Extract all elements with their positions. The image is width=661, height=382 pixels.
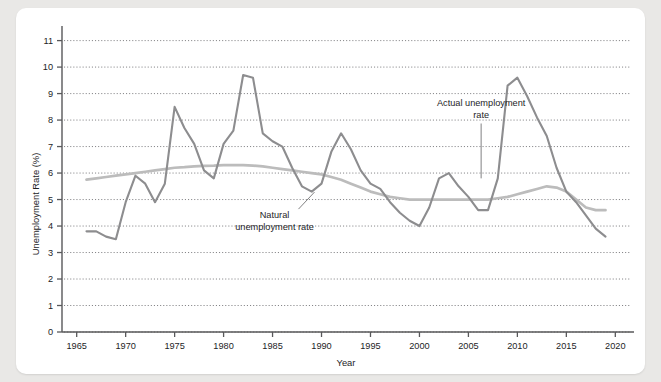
chart-plot-area: 01234567891011 1965197019751980198519901… — [16, 8, 645, 374]
annotation-natural-line1: Natural — [260, 210, 290, 220]
y-axis-title: Unemployment Rate (%) — [30, 153, 41, 256]
y-tick-label-2: 2 — [48, 274, 53, 284]
x-tick-label-1965: 1965 — [66, 341, 86, 351]
x-tick-label-1985: 1985 — [262, 341, 282, 351]
y-tick-label-6: 6 — [48, 168, 53, 178]
y-tick-label-3: 3 — [48, 248, 53, 258]
y-tick-label-9: 9 — [48, 89, 53, 99]
data-series — [86, 75, 605, 239]
x-axis-title: Year — [337, 357, 356, 368]
x-tick-label-2000: 2000 — [409, 341, 429, 351]
x-tick-label-2005: 2005 — [458, 341, 478, 351]
series-line-actual-unemployment — [86, 75, 605, 239]
y-tick-label-1: 1 — [48, 301, 53, 311]
y-tick-label-5: 5 — [48, 195, 53, 205]
x-tick-label-2010: 2010 — [507, 341, 527, 351]
x-tick-label-1975: 1975 — [164, 341, 184, 351]
y-tick-labels: 01234567891011 — [43, 36, 53, 337]
annotation-natural-leader-line — [299, 192, 315, 209]
x-tick-label-1980: 1980 — [213, 341, 233, 351]
unemployment-line-chart: 01234567891011 1965197019751980198519901… — [16, 8, 645, 374]
annotation-actual-line1: Actual unemployment — [437, 98, 526, 108]
x-tick-label-2020: 2020 — [605, 341, 625, 351]
y-tick-label-0: 0 — [48, 327, 53, 337]
y-tick-label-7: 7 — [48, 142, 53, 152]
y-tick-label-8: 8 — [48, 115, 53, 125]
x-tick-label-1990: 1990 — [311, 341, 331, 351]
series-annotations: Naturalunemployment rateActual unemploym… — [235, 98, 526, 233]
y-tick-label-4: 4 — [48, 221, 53, 231]
annotation-natural-line2: unemployment rate — [235, 222, 314, 232]
x-tick-label-1995: 1995 — [360, 341, 380, 351]
y-tick-label-10: 10 — [43, 62, 53, 72]
x-tick-labels: 1965197019751980198519901995200020052010… — [66, 341, 625, 351]
y-tick-label-11: 11 — [43, 36, 53, 46]
chart-figure: 01234567891011 1965197019751980198519901… — [16, 8, 645, 374]
series-line-natural-unemployment — [86, 165, 605, 210]
x-tick-label-2015: 2015 — [556, 341, 576, 351]
annotation-actual-line2: rate — [473, 110, 489, 120]
x-tick-label-1970: 1970 — [115, 341, 135, 351]
